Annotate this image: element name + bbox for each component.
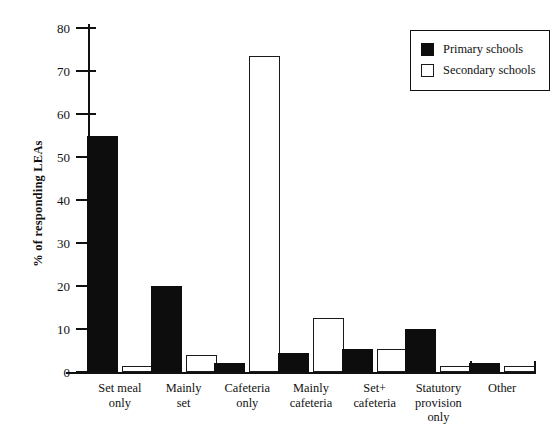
bar-primary bbox=[87, 136, 118, 373]
legend-swatch-filled-square-icon bbox=[421, 43, 434, 56]
bar-primary bbox=[405, 329, 436, 372]
bar-primary bbox=[214, 363, 245, 372]
x-axis-category-label: Other bbox=[470, 381, 534, 396]
bar-primary bbox=[278, 353, 309, 372]
bar-secondary bbox=[377, 349, 408, 372]
bar-secondary bbox=[313, 318, 344, 372]
bar-primary bbox=[342, 349, 373, 372]
x-axis-category-label: Set+ cafeteria bbox=[343, 381, 407, 410]
bar-secondary bbox=[249, 56, 280, 372]
bar-primary bbox=[151, 286, 182, 372]
x-axis-category-label: Statutory provision only bbox=[407, 381, 471, 425]
x-axis-category-label: Cafeteria only bbox=[215, 381, 279, 410]
x-axis-category-label: Mainly set bbox=[152, 381, 216, 410]
bar-secondary bbox=[186, 355, 217, 372]
legend-label-secondary-schools: Secondary schools bbox=[443, 64, 536, 76]
x-axis-category-label: Mainly cafeteria bbox=[279, 381, 343, 410]
legend-label-primary-schools: Primary schools bbox=[443, 43, 523, 55]
x-axis-category-label: Set meal only bbox=[88, 381, 152, 410]
legend-swatch-outline-square-icon bbox=[421, 64, 434, 77]
bar-secondary bbox=[122, 366, 153, 372]
bar-primary bbox=[469, 363, 500, 372]
bar-secondary bbox=[504, 366, 535, 372]
chart-legend: Primary schools Secondary schools bbox=[410, 30, 550, 91]
x-axis-line bbox=[66, 372, 536, 374]
bar-secondary bbox=[440, 366, 471, 372]
legend-item-primary-schools: Primary schools bbox=[421, 39, 540, 60]
legend-item-secondary-schools: Secondary schools bbox=[421, 60, 540, 81]
bar-chart-figure: % of responding LEAs 01020304050607080 S… bbox=[0, 0, 559, 444]
